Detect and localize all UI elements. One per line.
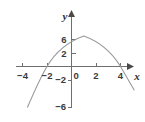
- origin-label: 0: [74, 70, 79, 81]
- y-tick-label-pos6: 6: [61, 34, 66, 45]
- y-tick-label-neg2: −2: [55, 74, 66, 85]
- x-axis-arrow-icon: [127, 63, 134, 70]
- y-tick-label-neg6: −6: [55, 101, 66, 112]
- x-tick-label-neg4: −4: [17, 70, 29, 81]
- x-tick-label-pos2: 2: [93, 70, 98, 81]
- y-axis-arrow-icon: [68, 10, 75, 17]
- y-tick-label-pos2: 2: [61, 48, 66, 59]
- parabola-graph-figure: −4 −2 2 4 6 2 −2 −6 0 x y: [0, 0, 145, 122]
- x-tick-label-pos4: 4: [118, 70, 124, 81]
- coordinate-plane-svg: −4 −2 2 4 6 2 −2 −6 0 x y: [0, 0, 145, 122]
- x-axis-label: x: [133, 70, 140, 82]
- x-tick-label-neg2: −2: [42, 70, 53, 81]
- y-axis-label: y: [61, 10, 68, 22]
